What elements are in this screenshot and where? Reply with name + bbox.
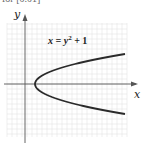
- plot-area: [0, 0, 145, 151]
- x-axis-label: x: [134, 88, 140, 101]
- equation-tail: + 1: [72, 35, 88, 46]
- y-axis-label: y: [14, 8, 20, 21]
- equation-main: x = y: [48, 35, 68, 46]
- y-axis-arrow-icon: [23, 14, 28, 21]
- equation-label: x = y2 + 1: [48, 34, 87, 46]
- x-axis-arrow-icon: [131, 82, 138, 87]
